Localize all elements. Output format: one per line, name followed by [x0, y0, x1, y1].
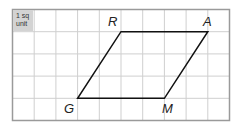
unit-label-line1: 1 sq [16, 12, 33, 20]
vertex-label-a: A [203, 14, 212, 29]
grid-lines [13, 10, 230, 121]
unit-label-line2: unit [16, 20, 33, 28]
vertex-label-r: R [108, 14, 117, 29]
vertex-label-m: M [162, 101, 173, 116]
vertex-label-g: G [64, 101, 74, 116]
unit-square-legend: 1 sq unit [13, 10, 33, 31]
